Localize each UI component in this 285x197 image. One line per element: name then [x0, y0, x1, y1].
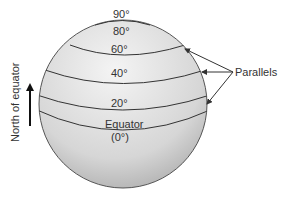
label-80: 80° — [113, 25, 130, 37]
label-equator: Equator — [105, 118, 144, 130]
label-equator-degrees: (0°) — [111, 131, 129, 143]
label-parallels: Parallels — [235, 66, 278, 78]
label-90: 90° — [113, 8, 130, 20]
globe-diagram: 90° 80° 60° 40° 20° Equator (0°) Paralle… — [0, 0, 285, 197]
north-arrow — [26, 83, 34, 126]
label-north-of-equator: North of equator — [9, 62, 21, 142]
label-40: 40° — [111, 67, 128, 79]
label-20: 20° — [111, 97, 128, 109]
label-60: 60° — [111, 43, 128, 55]
